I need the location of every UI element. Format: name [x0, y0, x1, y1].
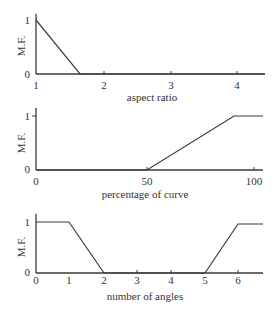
membership-curve — [36, 20, 265, 74]
x-tick-label: 4 — [168, 274, 174, 286]
x-tick-label: 5 — [202, 274, 208, 286]
x-axis-label: aspect ratio — [127, 91, 178, 103]
x-tick-label: 6 — [235, 274, 241, 286]
panel-number-of-angles: 1 0 0 1 2 3 4 5 6 number of angles M.F. — [15, 214, 263, 302]
x-tick-label: 0 — [33, 175, 39, 187]
x-tick-label: 3 — [134, 274, 140, 286]
panel-percentage-of-curve: 1 0 0 50 100 percentage of curve M.F. — [15, 108, 263, 200]
x-tick-label: 4 — [234, 79, 240, 91]
y-tick-label: 1 — [25, 110, 31, 122]
panel-aspect-ratio: 1 0 1 2 3 4 aspect ratio M.F. — [15, 14, 265, 103]
x-axis-label: percentage of curve — [102, 188, 189, 200]
x-tick-label: 1 — [33, 79, 39, 91]
x-tick-label: 100 — [246, 175, 263, 187]
y-axis-label: M.F. — [15, 236, 27, 257]
x-tick-label: 0 — [33, 274, 39, 286]
y-tick-label: 1 — [25, 216, 31, 228]
y-tick-label: 0 — [25, 163, 31, 175]
y-axis-label: M.F. — [15, 35, 27, 56]
y-tick-label: 0 — [25, 68, 31, 80]
y-tick-label: 1 — [25, 14, 31, 26]
y-tick-label: 0 — [25, 266, 31, 278]
membership-function-figure: 1 0 1 2 3 4 aspect ratio M.F. 1 0 0 50 1… — [0, 0, 278, 317]
x-axis-label: number of angles — [107, 290, 183, 302]
x-tick-label: 2 — [101, 79, 107, 91]
x-tick-label: 1 — [66, 274, 72, 286]
x-tick-label: 50 — [142, 175, 154, 187]
membership-curve — [36, 116, 263, 170]
x-tick-label: 2 — [101, 274, 107, 286]
y-axis-label: M.F. — [15, 132, 27, 153]
x-tick-label: 3 — [168, 79, 174, 91]
membership-curve — [36, 222, 263, 273]
